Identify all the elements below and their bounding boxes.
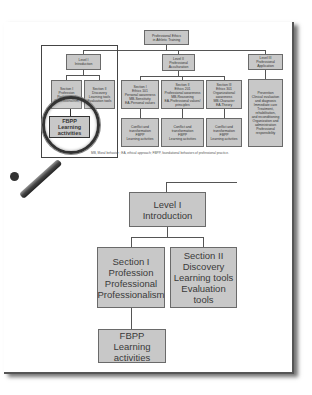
magnified-fbpp-box: FBPP Learning activities — [49, 116, 90, 138]
connector — [131, 308, 132, 329]
connector — [166, 182, 167, 192]
zoom-fbpp-box: FBPP Learning activities — [98, 329, 166, 363]
connector — [167, 227, 168, 237]
root-box: Professional Ethics in Athletic Training — [144, 30, 189, 45]
figure-caption: MB, Moral behavior ; EA, ethical approac… — [91, 151, 229, 155]
connector — [131, 237, 132, 247]
level-2-section-2: Section II Ethics 201 Professional aware… — [161, 80, 204, 109]
level-3-content: Prevention Clinical evaluation and diagn… — [248, 79, 283, 147]
connector — [70, 109, 71, 116]
zoom-level-1-box: Level I Introduction — [129, 192, 206, 227]
level-2-box: Level II Professional Acculturation — [162, 54, 195, 71]
level-2-activity-2: Conflict and transformation FBPP Learnin… — [161, 118, 204, 147]
connector — [182, 109, 183, 118]
level-1-box: Level I Introduction — [66, 54, 101, 70]
connector — [224, 109, 225, 118]
level-2-activity-3: Conflict and transformation FBPP Learnin… — [206, 118, 242, 147]
connector — [265, 70, 266, 79]
connector — [203, 237, 204, 247]
magnifier-handle-end — [10, 172, 19, 181]
level-2-section-3: Section III Ethics 301 Organizational aw… — [206, 80, 242, 109]
zoom-section-1-box: Section I Profession Professional Profes… — [97, 247, 165, 308]
zoom-section-2-box: Section II Discovery Learning tools Eval… — [170, 247, 237, 308]
level-2-activity-1: Conflict and transformation FBPP Learnin… — [121, 118, 159, 147]
connector — [166, 182, 237, 183]
level-3-box: Level III Professional Application — [248, 54, 283, 70]
connector — [66, 75, 100, 76]
connector — [140, 109, 141, 118]
connector — [131, 237, 204, 238]
level-2-section-1: Section I Ethics 101 Personal awareness … — [121, 80, 159, 109]
